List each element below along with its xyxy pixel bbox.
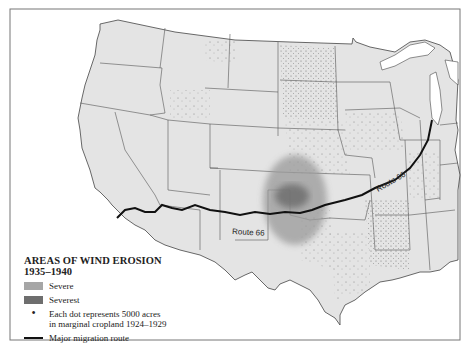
legend-item-severest: Severest (24, 295, 194, 305)
legend-years: 1935–1940 (24, 266, 194, 277)
legend-item-severe: Severe (24, 281, 194, 291)
legend-item-dot: • Each dot represents 5000 acres in marg… (24, 309, 194, 329)
legend-title: AREAS OF WIND EROSION (24, 255, 194, 266)
erosion-zones (263, 155, 327, 245)
legend-item-route: Major migration route (24, 333, 194, 343)
severe-swatch-icon (24, 282, 43, 290)
dot-icon: • (24, 309, 43, 317)
severest-zone (275, 184, 309, 208)
map-legend: AREAS OF WIND EROSION 1935–1940 Severe S… (24, 255, 194, 343)
route-66-label-west: Route 66 (232, 227, 265, 238)
route-line-icon (24, 337, 43, 339)
severest-swatch-icon (24, 296, 43, 304)
